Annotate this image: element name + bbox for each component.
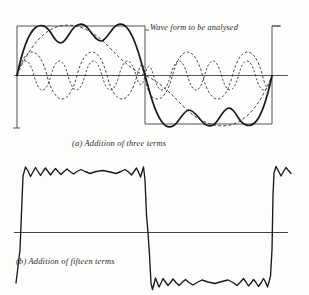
panel-a-caption: (a) Addition of three terms	[72, 139, 166, 148]
panel-a-group	[13, 24, 288, 128]
figure-container: Wave form to be analysed (a) Addition of…	[0, 0, 309, 295]
panel-b-sum-curve	[16, 167, 291, 290]
panel-b-group	[14, 167, 291, 290]
waveform-annotation-label: Wave form to be analysed	[150, 23, 238, 32]
panel-b-caption: (b) Addition of fifteen terms	[16, 257, 115, 266]
